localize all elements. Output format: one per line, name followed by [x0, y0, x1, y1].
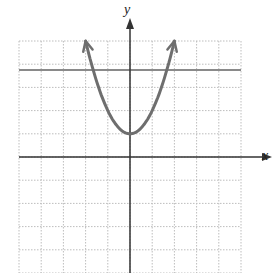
- axes: [19, 18, 272, 273]
- y-axis-label: y: [124, 2, 130, 18]
- chart-canvas: [0, 0, 280, 273]
- x-axis-label: x: [262, 148, 268, 164]
